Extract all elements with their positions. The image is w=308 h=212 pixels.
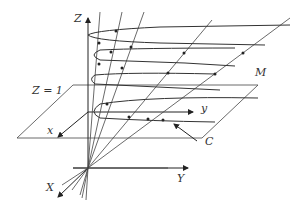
cone-diagram: Z Z = 1 x y X Y M C: [0, 0, 308, 212]
label-y-small: y: [200, 102, 208, 115]
label-x-small: x: [47, 124, 54, 137]
x-axis-small: [58, 112, 88, 137]
label-Z: Z: [73, 12, 82, 25]
cone-generators: [62, 12, 290, 200]
C-pointer: [174, 124, 197, 141]
label-plane-z1: Z = 1: [31, 84, 63, 97]
label-X: X: [45, 181, 55, 194]
curve-C: [94, 98, 258, 122]
label-Y: Y: [177, 172, 186, 185]
label-M: M: [254, 66, 267, 79]
surface-M-curves: [88, 25, 290, 90]
label-C: C: [205, 135, 214, 148]
